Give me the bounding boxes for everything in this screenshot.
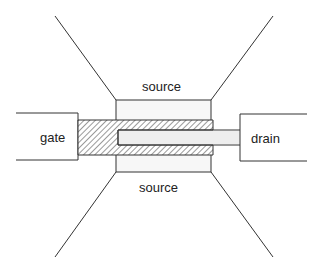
source-bottom-region (116, 153, 211, 172)
gate-label: gate (40, 131, 65, 144)
source-top-right-lead (211, 16, 273, 100)
source-top-region (116, 100, 211, 122)
source-top-label: source (142, 80, 181, 93)
source-top-left-lead (55, 16, 116, 100)
source-bottom-label: source (139, 181, 178, 194)
source-bottom-right-lead (211, 172, 273, 257)
source-bottom-left-lead (55, 172, 116, 257)
drain-label: drain (251, 132, 280, 145)
